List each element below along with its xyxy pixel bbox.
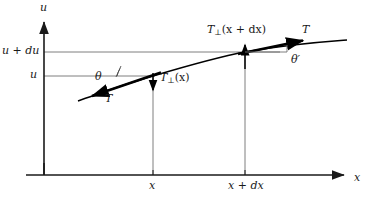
perp-tension-label-at-x-plus-dx: T⊥(x + dx): [207, 24, 266, 37]
y-tick-label-u-plus-du: u + du: [2, 45, 39, 56]
perp-tension-subscript-at-x-plus-dx: ⊥: [214, 28, 221, 37]
angle-label-theta: θ: [95, 71, 102, 82]
perp-tension-label-at-x: T⊥(x): [160, 72, 190, 85]
perp-tension-argument-at-x: (x): [175, 71, 190, 84]
theta-leg-tick: [116, 66, 121, 77]
angle-label-theta-prime: θ′: [291, 54, 300, 65]
x-tick-label-x: x: [149, 180, 155, 191]
curve-path: [78, 40, 347, 101]
string-curve: [78, 40, 347, 101]
tension-label-lower-left: T: [105, 93, 112, 104]
tension-vectors: [92, 41, 303, 97]
x-axis-label: x: [354, 172, 360, 183]
tension-label-upper-right: T: [302, 24, 309, 35]
y-axis-label: u: [40, 2, 47, 13]
x-tick-label-x-plus-dx: x + dx: [228, 180, 264, 191]
tension-diagram-figure: u x u + du u x x + dx T T T⊥(x) T⊥(x + d…: [0, 0, 365, 197]
perp-tension-argument-at-x-plus-dx: (x + dx): [222, 23, 266, 36]
perp-tension-subscript-at-x: ⊥: [167, 76, 174, 85]
y-tick-label-u: u: [30, 69, 37, 80]
diagram-canvas: [0, 0, 365, 197]
